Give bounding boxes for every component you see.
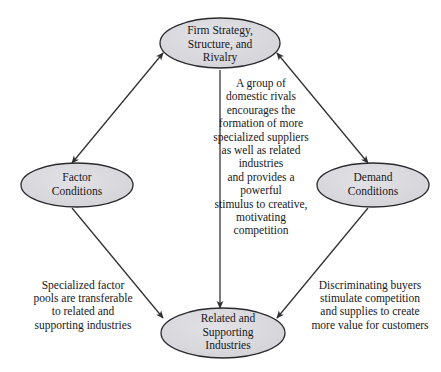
connector-caption-demand-to-related: Discriminating buyers stimulate competit… — [300, 279, 440, 332]
diamond-diagram: Firm Strategy, Structure, and Rivalry Fa… — [0, 0, 441, 372]
node-firm-strategy[interactable] — [160, 18, 280, 68]
node-related-supporting-industries[interactable] — [161, 308, 285, 358]
page-bottom-cropped-text — [0, 364, 441, 372]
connector-caption-factor-to-related: Specialized factor pools are transferabl… — [8, 279, 158, 332]
node-factor-conditions[interactable] — [21, 163, 133, 207]
node-demand-conditions[interactable] — [317, 163, 429, 207]
connector-caption-firm-to-related: A group of domestic rivals encourages th… — [196, 77, 326, 238]
connector-factor-to-firm — [72, 53, 163, 163]
